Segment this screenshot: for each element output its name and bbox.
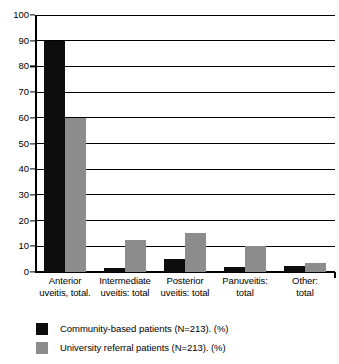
plot-area: 0102030405060708090100 Anterioruveitis, … bbox=[0, 0, 339, 300]
bar-community-1 bbox=[104, 268, 125, 272]
bar-university-2 bbox=[185, 233, 206, 272]
bar-community-4 bbox=[284, 266, 305, 272]
bar-university-0 bbox=[65, 118, 86, 272]
legend-label-university: University referral patients (N=213). (%… bbox=[60, 342, 226, 353]
x-axis-category-label: Other:total bbox=[265, 275, 339, 298]
bar-community-2 bbox=[164, 259, 185, 272]
y-tick-label: 30 bbox=[3, 190, 29, 200]
legend-label-community: Community-based patients (N=213). (%) bbox=[60, 323, 228, 334]
y-tick-label: 100 bbox=[3, 10, 29, 20]
chart-legend: Community-based patients (N=213). (%) Un… bbox=[36, 319, 326, 357]
y-tick-label: 80 bbox=[3, 62, 29, 72]
bar-university-3 bbox=[245, 246, 266, 272]
bars-layer bbox=[35, 0, 335, 300]
bar-community-3 bbox=[224, 267, 245, 272]
bar-university-4 bbox=[305, 263, 326, 272]
legend-item: Community-based patients (N=213). (%) bbox=[36, 319, 326, 338]
y-tick-label: 10 bbox=[3, 242, 29, 252]
legend-swatch-community bbox=[36, 323, 48, 335]
bar-community-0 bbox=[44, 41, 65, 272]
y-tick-label: 20 bbox=[3, 216, 29, 226]
y-tick-label: 70 bbox=[3, 87, 29, 97]
bar-university-1 bbox=[125, 240, 146, 272]
x-axis-labels: Anterioruveitis, total.Intermediateuveit… bbox=[35, 275, 335, 305]
legend-swatch-university bbox=[36, 342, 48, 354]
y-tick-label: 50 bbox=[3, 139, 29, 149]
y-tick-label: 90 bbox=[3, 36, 29, 46]
legend-item: University referral patients (N=213). (%… bbox=[36, 338, 326, 357]
y-tick-label: 40 bbox=[3, 164, 29, 174]
y-tick-label: 60 bbox=[3, 113, 29, 123]
bar-chart: 0102030405060708090100 Anterioruveitis, … bbox=[0, 0, 339, 364]
